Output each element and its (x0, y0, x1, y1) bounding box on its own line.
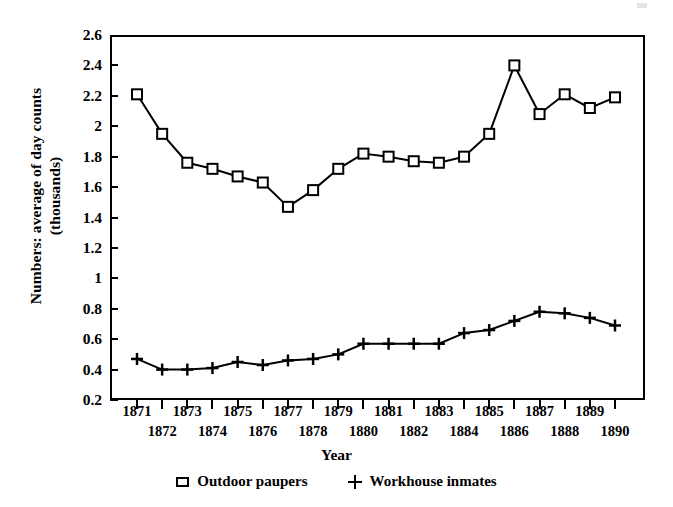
data-point-marker (258, 178, 268, 188)
x-tick-label: 1883 (415, 404, 463, 419)
x-tick-mark (589, 400, 591, 409)
series-outdoor-paupers (132, 60, 620, 211)
x-tick-mark (614, 400, 616, 409)
x-tick-mark (488, 400, 490, 409)
data-point-marker (459, 152, 469, 162)
x-tick-label: 1873 (163, 404, 211, 419)
x-tick-label: 1872 (138, 424, 186, 439)
x-tick-mark (287, 400, 289, 409)
data-point-marker (509, 60, 519, 70)
x-tick-mark (413, 400, 415, 409)
y-axis-title: Numbers: average of day counts (thousand… (26, 46, 82, 346)
data-point-marker (535, 109, 545, 119)
x-tick-mark (362, 400, 364, 409)
legend-label: Workhouse inmates (370, 473, 497, 490)
data-point-marker (384, 152, 394, 162)
y-tick-label: 2.6 (38, 27, 102, 43)
x-tick-label: 1884 (440, 424, 488, 439)
x-tick-label: 1880 (339, 424, 387, 439)
x-tick-label: 1888 (541, 424, 589, 439)
data-point-marker (434, 158, 444, 168)
x-tick-label: 1874 (188, 424, 236, 439)
x-tick-mark (539, 400, 541, 409)
x-tick-mark (337, 400, 339, 409)
legend-entry-workhouse-inmates: Workhouse inmates (348, 473, 497, 490)
x-axis-title: Year (0, 446, 673, 464)
x-tick-mark (161, 400, 163, 409)
x-tick-label: 1879 (314, 404, 362, 419)
scan-artifact (637, 3, 647, 8)
legend-label: Outdoor paupers (197, 473, 307, 490)
plus-marker-icon (348, 475, 362, 489)
open-square-marker-icon (176, 477, 189, 487)
x-tick-label: 1885 (465, 404, 513, 419)
data-point-marker (409, 156, 419, 166)
data-point-marker (358, 149, 368, 159)
x-tick-mark (438, 400, 440, 409)
data-point-marker (585, 103, 595, 113)
series-line (137, 65, 615, 206)
data-point-marker (610, 92, 620, 102)
data-point-marker (560, 89, 570, 99)
x-tick-mark (211, 400, 213, 409)
x-tick-mark (312, 400, 314, 409)
x-tick-mark (513, 400, 515, 409)
chart-legend: Outdoor paupers Workhouse inmates (0, 473, 673, 490)
data-point-marker (132, 89, 142, 99)
series-workhouse-inmates (131, 306, 621, 376)
x-tick-mark (463, 400, 465, 409)
x-tick-label: 1877 (264, 404, 312, 419)
data-point-marker (233, 171, 243, 181)
data-point-marker (207, 164, 217, 174)
y-tick-label: 0.2 (38, 392, 102, 408)
x-tick-mark (388, 400, 390, 409)
x-tick-label: 1889 (566, 404, 614, 419)
x-tick-label: 1875 (214, 404, 262, 419)
x-tick-label: 1876 (239, 424, 287, 439)
data-point-marker (283, 202, 293, 212)
x-tick-label: 1871 (113, 404, 161, 419)
data-point-marker (308, 185, 318, 195)
plot-series-canvas (110, 35, 645, 400)
legend-entry-outdoor-paupers: Outdoor paupers (176, 473, 307, 490)
y-tick-label: 0.4 (38, 362, 102, 378)
line-chart-figure: Numbers: average of day counts (thousand… (0, 0, 673, 507)
data-point-marker (157, 129, 167, 139)
x-tick-mark (136, 400, 138, 409)
data-point-marker (182, 158, 192, 168)
x-tick-mark (186, 400, 188, 409)
data-point-marker (333, 164, 343, 174)
x-tick-label: 1886 (490, 424, 538, 439)
x-tick-label: 1878 (289, 424, 337, 439)
series-line (137, 312, 615, 370)
x-tick-label: 1890 (591, 424, 639, 439)
x-tick-mark (564, 400, 566, 409)
x-tick-label: 1881 (365, 404, 413, 419)
x-tick-mark (237, 400, 239, 409)
x-tick-label: 1887 (516, 404, 564, 419)
x-tick-label: 1882 (390, 424, 438, 439)
x-tick-mark (262, 400, 264, 409)
data-point-marker (484, 129, 494, 139)
